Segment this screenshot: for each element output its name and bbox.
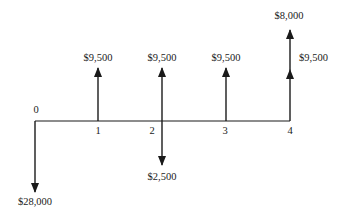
arrowhead-up-icon bbox=[286, 69, 294, 79]
period-label-0: 0 bbox=[33, 104, 38, 116]
cash-flow-label-p1-up: $9,500 bbox=[84, 52, 113, 64]
arrowhead-down-icon bbox=[158, 156, 166, 166]
arrowhead-up-icon bbox=[286, 29, 294, 39]
period-label-1: 1 bbox=[95, 125, 100, 137]
cash-flow-label-p4-up: $9,500 bbox=[299, 52, 328, 64]
arrowhead-up-icon bbox=[94, 67, 102, 77]
cash-flow-label-p0-down: $28,000 bbox=[18, 196, 52, 208]
cash-flow-label-p2-up: $9,500 bbox=[148, 52, 177, 64]
period-label-4: 4 bbox=[287, 125, 292, 137]
arrowhead-up-icon bbox=[222, 67, 230, 77]
cash-flow-label-p3-up: $9,500 bbox=[212, 52, 241, 64]
cash-flow-label-p4-up-top: $8,000 bbox=[275, 10, 304, 22]
period-label-2: 2 bbox=[149, 125, 154, 137]
period-label-3: 3 bbox=[222, 125, 227, 137]
arrowhead-down-icon bbox=[31, 183, 39, 193]
arrowhead-up-icon bbox=[158, 67, 166, 77]
cash-flow-label-p2-down: $2,500 bbox=[148, 171, 177, 183]
